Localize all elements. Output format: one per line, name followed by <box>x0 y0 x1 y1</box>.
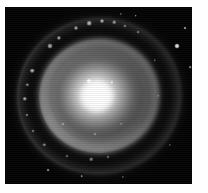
galaxy-figure <box>0 0 208 193</box>
sky-background <box>5 7 192 184</box>
spiral-galaxy <box>5 7 192 184</box>
